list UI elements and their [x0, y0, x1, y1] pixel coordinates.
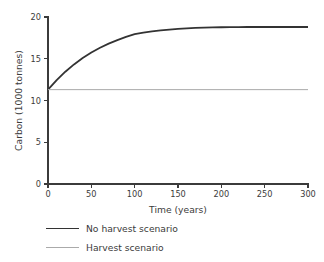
y-axis-title-text: Carbon (1000 tonnes) [13, 50, 24, 151]
x-tick-label: 300 [300, 189, 316, 199]
y-tick-label: 15 [31, 54, 41, 64]
y-axis-title: Carbon (1000 tonnes) [13, 50, 24, 151]
x-tick-label: 250 [257, 189, 273, 199]
y-tick-label: 0 [36, 179, 41, 189]
x-tick-label: 200 [214, 189, 230, 199]
x-tick-label: 50 [86, 189, 96, 199]
x-tick-label: 100 [127, 189, 143, 199]
chart-figure: 05101520 050100150200250300 Carbon (1000… [0, 0, 324, 262]
x-tick-label: 0 [45, 189, 50, 199]
x-axis-title-text: Time (years) [148, 204, 207, 215]
y-tick-label: 20 [31, 12, 41, 22]
x-axis-title: Time (years) [148, 204, 207, 215]
y-tick-label: 10 [31, 96, 41, 106]
carbon-time-line-chart: 05101520 050100150200250300 Carbon (1000… [0, 0, 324, 262]
y-tick-label: 5 [36, 137, 41, 147]
x-tick-label: 150 [170, 189, 186, 199]
legend-label: Harvest scenario [86, 242, 164, 253]
legend-label: No harvest scenario [86, 223, 178, 234]
